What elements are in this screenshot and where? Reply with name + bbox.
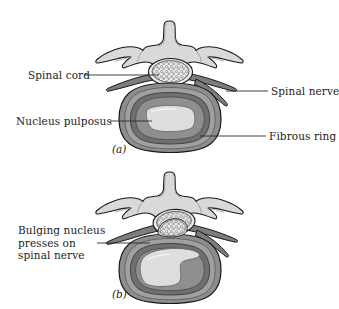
label-spinal-nerve: Spinal nerve	[271, 85, 339, 98]
label-fibrous-ring: Fibrous ring	[269, 130, 336, 143]
panel-b-illustration	[96, 172, 243, 304]
figure-root: Spinal cord Nucleus pulposus Spinal nerv…	[0, 0, 339, 309]
herniated-disc-b	[119, 234, 221, 304]
caption-panel-b: (b)	[112, 288, 127, 300]
panel-a-illustration	[96, 21, 243, 153]
spinal-cord-a	[149, 59, 193, 86]
intervertebral-disc-a	[119, 83, 221, 153]
label-spinal-cord: Spinal cord	[28, 69, 90, 82]
label-bulging-nucleus-line2: presses on	[18, 237, 105, 250]
label-bulging-nucleus-line1: Bulging nucleus	[18, 224, 105, 237]
label-nucleus-pulposus: Nucleus pulposus	[16, 115, 112, 128]
vertebra-diagram	[0, 0, 339, 309]
caption-panel-a: (a)	[112, 143, 126, 155]
label-bulging-nucleus-block: Bulging nucleus presses on spinal nerve	[18, 224, 105, 262]
label-bulging-nucleus-line3: spinal nerve	[18, 249, 105, 262]
